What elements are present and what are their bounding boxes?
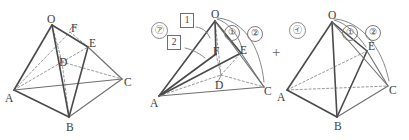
edge-A-B — [14, 90, 69, 117]
marker-circle-2-panel3: ② — [365, 25, 381, 41]
edge-O-A — [14, 25, 52, 90]
vertex-label-O-panel1: O — [47, 14, 55, 26]
marker-circle-1-panel2: ① — [224, 25, 240, 41]
b-edge-E-C — [367, 51, 388, 86]
vertex-label-C-panel2: C — [264, 86, 272, 98]
plus-operator: + — [272, 45, 280, 60]
vertex-label-O-panel3: O — [328, 10, 336, 22]
vertex-label-A-panel3: A — [277, 92, 285, 104]
vertex-label-E-panel2: E — [240, 45, 247, 57]
part-tag-a: ㋐ — [151, 22, 168, 39]
vertex-label-C-panel1: C — [124, 77, 132, 89]
b-edge-A-B — [287, 90, 337, 117]
b-edge-A-C — [287, 86, 388, 90]
vertex-label-B-panel3: B — [334, 121, 342, 133]
geometry-lines — [0, 0, 409, 140]
marker-box-2-panel2: 2 — [167, 35, 181, 50]
marker-circle-1-panel3: ① — [342, 25, 358, 41]
part-tag-b: ㋑ — [289, 22, 306, 39]
marker-box-1-panel2: 1 — [180, 13, 194, 28]
vertex-label-F-panel1: F — [71, 23, 77, 35]
vertex-label-A-panel1: A — [5, 93, 13, 105]
vertex-label-B-panel1: B — [66, 122, 74, 134]
edge-O-B — [52, 25, 69, 117]
figure-canvas: O F E D A B C O F E D A C ㋐ 1 2 ① ② + O … — [0, 0, 409, 140]
edge-E-B — [69, 47, 88, 117]
b-edge-O-B — [332, 22, 337, 117]
panel-original-edges — [14, 25, 122, 117]
a-edge-A-F — [159, 54, 216, 96]
vertex-label-E-panel3: E — [368, 41, 375, 53]
vertex-label-E-panel1: E — [89, 38, 96, 50]
vertex-label-A-panel2: A — [150, 98, 158, 110]
vertex-label-O-panel2: O — [211, 9, 219, 21]
a-edge-D-E — [221, 53, 241, 75]
marker-circle-2-panel2: ② — [247, 26, 263, 42]
vertex-label-D-panel2: D — [215, 80, 223, 92]
vertex-label-D-panel1: D — [59, 57, 67, 69]
vertex-label-C-panel3: C — [389, 85, 397, 97]
b-edge-E-B — [337, 51, 367, 117]
vertex-label-F-panel2: F — [213, 46, 219, 58]
